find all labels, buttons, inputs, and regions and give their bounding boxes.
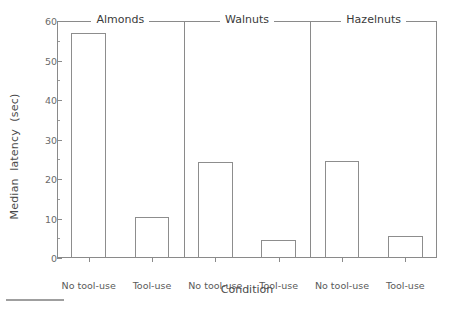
bar <box>325 161 360 258</box>
axis-frame-top <box>274 21 341 22</box>
y-tick-label: 20 <box>35 174 57 185</box>
y-tick-label: 0 <box>35 253 57 264</box>
y-tick-label: 40 <box>35 95 57 106</box>
x-tick <box>152 258 153 262</box>
plot-area: AlmondsNo tool-useTool-useWalnutsNo tool… <box>57 21 437 258</box>
y-tick-label: 30 <box>35 134 57 145</box>
y-tick-major <box>57 258 62 259</box>
y-tick-label: 50 <box>35 55 57 66</box>
panel-label-walnuts: Walnuts <box>220 13 274 26</box>
panel-label-hazelnuts: Hazelnuts <box>341 13 406 26</box>
x-tick <box>405 258 406 262</box>
axis-frame-top <box>149 21 220 22</box>
axis-frame-bottom <box>57 257 437 258</box>
x-tick <box>279 258 280 262</box>
y-tick-label: 10 <box>35 213 57 224</box>
x-tick <box>342 258 343 262</box>
y-axis: 0102030405060 <box>28 0 57 313</box>
bar <box>135 217 170 258</box>
chart-figure: Median latency (sec) 0102030405060 Almon… <box>0 0 460 313</box>
panel-divider <box>310 21 311 258</box>
bar <box>71 33 106 258</box>
panel-divider <box>184 21 185 258</box>
y-axis-label: Median latency (sec) <box>0 0 28 313</box>
x-axis-label: Condition <box>57 283 437 296</box>
axis-frame-left <box>57 21 58 258</box>
bar <box>198 162 233 258</box>
axis-frame-top <box>57 21 91 22</box>
bar <box>388 236 423 258</box>
scan-artifact-line <box>6 299 64 301</box>
bar <box>261 240 296 258</box>
axis-frame-top <box>406 21 437 22</box>
x-tick <box>215 258 216 262</box>
axis-frame-right <box>436 21 437 258</box>
x-tick <box>89 258 90 262</box>
y-tick-label: 60 <box>35 16 57 27</box>
panel-label-almonds: Almonds <box>91 13 149 26</box>
